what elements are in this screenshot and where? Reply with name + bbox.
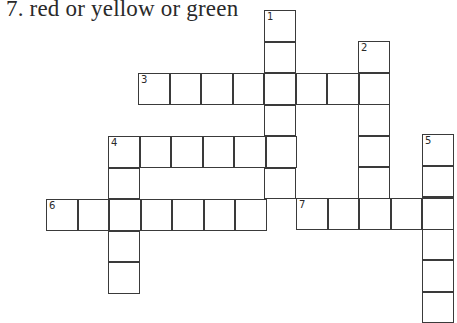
clue-number: 7 <box>299 200 305 210</box>
crossword-cell[interactable] <box>201 73 233 105</box>
crossword-cell[interactable] <box>108 262 140 294</box>
crossword-cell[interactable] <box>264 73 296 105</box>
crossword-cell[interactable] <box>204 199 236 231</box>
crossword-cell[interactable] <box>109 199 141 231</box>
crossword-cell[interactable] <box>422 260 454 292</box>
crossword-cell[interactable] <box>264 42 296 74</box>
crossword-cell[interactable] <box>358 104 390 136</box>
clue-number: 1 <box>267 12 273 22</box>
crossword-cell[interactable]: 4 <box>108 136 140 168</box>
clue-number: 2 <box>361 43 367 53</box>
crossword-cell[interactable] <box>296 73 328 105</box>
crossword-cell[interactable]: 3 <box>138 73 170 105</box>
crossword-cell[interactable] <box>266 136 298 168</box>
crossword-cell[interactable] <box>108 168 140 200</box>
crossword-cell[interactable] <box>264 105 296 137</box>
crossword-cell[interactable] <box>233 73 265 105</box>
crossword-cell[interactable] <box>391 198 423 230</box>
clue-number: 3 <box>141 75 147 85</box>
crossword-cell[interactable] <box>358 167 390 199</box>
crossword-cell[interactable]: 6 <box>46 199 78 231</box>
crossword-cell[interactable] <box>172 199 204 231</box>
crossword-cell[interactable] <box>359 198 391 230</box>
crossword-cell[interactable] <box>78 199 110 231</box>
clue-number: 4 <box>111 138 117 148</box>
crossword-cell[interactable] <box>358 136 390 168</box>
crossword-cell[interactable] <box>170 73 202 105</box>
crossword-cell[interactable] <box>203 136 235 168</box>
crossword-cell[interactable] <box>108 231 140 263</box>
crossword-cell[interactable] <box>422 166 454 198</box>
crossword-cell[interactable] <box>328 198 360 230</box>
crossword-cell[interactable] <box>264 168 296 200</box>
clue-number: 5 <box>425 136 431 146</box>
crossword-cell[interactable] <box>422 229 454 261</box>
crossword-cell[interactable]: 5 <box>422 134 454 166</box>
crossword-cell[interactable]: 2 <box>358 41 390 73</box>
crossword-cell[interactable] <box>235 199 267 231</box>
crossword-cell[interactable]: 7 <box>296 198 328 230</box>
crossword-cell[interactable] <box>422 198 454 230</box>
crossword-cell[interactable] <box>359 73 391 105</box>
crossword-cell[interactable] <box>234 136 266 168</box>
crossword-cell[interactable] <box>140 136 172 168</box>
clue-number: 6 <box>49 201 55 211</box>
crossword-cell[interactable] <box>171 136 203 168</box>
crossword-cell[interactable] <box>141 199 173 231</box>
crossword-cell[interactable] <box>422 292 454 323</box>
crossword-cell[interactable] <box>327 73 359 105</box>
crossword-cell[interactable]: 1 <box>264 10 296 42</box>
